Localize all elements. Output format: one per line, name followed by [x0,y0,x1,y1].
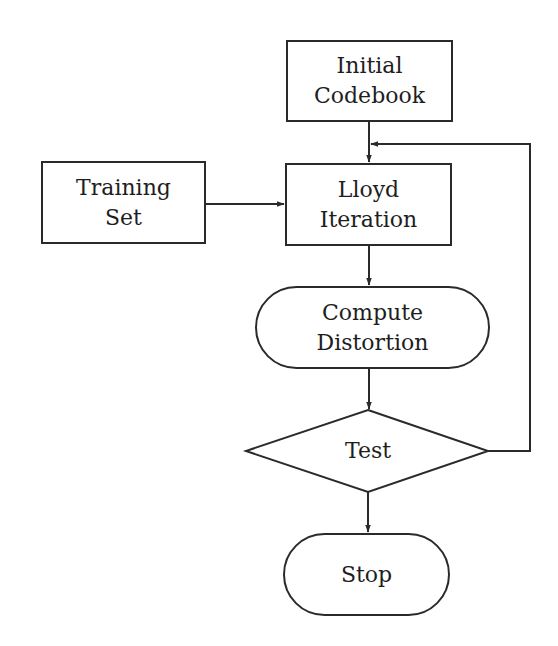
node-lloyd-iteration-line1: Lloyd [338,175,399,205]
node-test-label: Test [318,436,418,466]
node-initial-codebook-line2: Codebook [314,81,425,111]
node-training-set-line2: Set [105,203,142,233]
node-compute-distortion-line2: Distortion [317,328,429,358]
node-compute-distortion-line1: Compute [322,298,423,328]
node-training-set: Training Set [41,161,206,244]
node-stop-label: Stop [341,560,392,590]
node-lloyd-iteration-line2: Iteration [320,205,417,235]
node-training-set-line1: Training [76,173,171,203]
node-stop: Stop [283,533,450,616]
flowchart-canvas: Initial Codebook Training Set Lloyd Iter… [0,0,558,646]
node-compute-distortion: Compute Distortion [255,286,490,369]
node-initial-codebook: Initial Codebook [286,40,453,122]
node-initial-codebook-line1: Initial [337,51,403,81]
node-lloyd-iteration: Lloyd Iteration [285,163,452,246]
